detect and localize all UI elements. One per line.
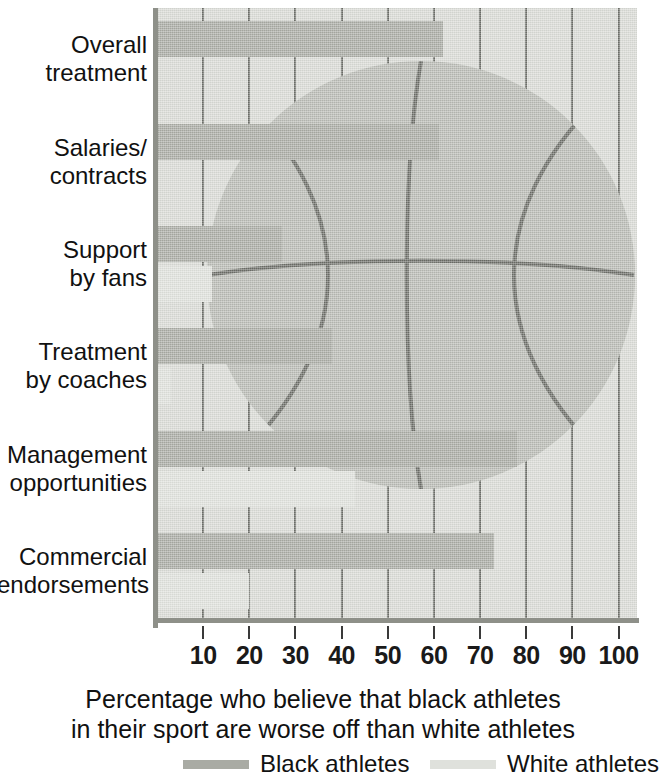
- x-tick-label: 30: [282, 641, 309, 670]
- caption-line-1: Percentage who believe that black athlet…: [0, 684, 646, 714]
- y-axis-line: [153, 8, 158, 628]
- gridline: [248, 8, 250, 622]
- x-tick: [571, 626, 573, 639]
- gridline: [571, 8, 573, 622]
- legend-item: Black athletes: [183, 750, 409, 778]
- category-label: Support by fans: [0, 236, 147, 292]
- category-label: Commercial endorsements: [0, 543, 147, 599]
- bar: [157, 226, 282, 262]
- gridline: [618, 8, 620, 622]
- gridline: [202, 8, 204, 622]
- plot-area: [157, 8, 637, 622]
- x-tick: [479, 626, 481, 639]
- x-tick-label: 80: [513, 641, 540, 670]
- x-tick: [525, 626, 527, 639]
- legend-item: White athletes: [430, 750, 659, 778]
- bar: [157, 266, 212, 302]
- legend-swatch: [183, 760, 249, 769]
- bar: [157, 21, 443, 57]
- gridline: [525, 8, 527, 622]
- legend-label: Black athletes: [260, 750, 409, 778]
- bar: [157, 328, 332, 364]
- x-tick: [387, 626, 389, 639]
- x-tick-label: 20: [236, 641, 263, 670]
- bar: [157, 124, 439, 160]
- legend-swatch: [430, 760, 496, 769]
- bar: [157, 471, 355, 507]
- x-tick: [341, 626, 343, 639]
- x-tick: [433, 626, 435, 639]
- category-label: Salaries/ contracts: [0, 134, 147, 190]
- category-label: Management opportunities: [0, 441, 147, 497]
- chart-legend: Black athletesWhite athletes: [0, 750, 646, 780]
- gridline: [433, 8, 435, 622]
- bar: [157, 368, 171, 404]
- legend-label: White athletes: [507, 750, 659, 778]
- x-tick: [202, 626, 204, 639]
- gridline: [387, 8, 389, 622]
- gridline: [294, 8, 296, 622]
- category-label: Overall treatment: [0, 31, 147, 87]
- gridline: [479, 8, 481, 622]
- x-tick: [294, 626, 296, 639]
- x-tick-label: 40: [328, 641, 355, 670]
- x-tick-label: 60: [421, 641, 448, 670]
- x-tick: [248, 626, 250, 639]
- x-tick-label: 10: [190, 641, 217, 670]
- x-tick-label: 90: [559, 641, 586, 670]
- caption-line-2: in their sport are worse off than white …: [0, 714, 646, 744]
- bar: [157, 573, 249, 609]
- bar: [157, 431, 517, 467]
- chart-caption: Percentage who believe that black athlet…: [0, 684, 646, 744]
- x-tick-label: 70: [467, 641, 494, 670]
- gridline: [341, 8, 343, 622]
- x-tick-label: 50: [374, 641, 401, 670]
- bar: [157, 533, 494, 569]
- x-tick: [618, 626, 620, 639]
- x-tick-label: 100: [598, 641, 638, 670]
- category-label: Treatment by coaches: [0, 338, 147, 394]
- x-axis-line: [153, 618, 639, 623]
